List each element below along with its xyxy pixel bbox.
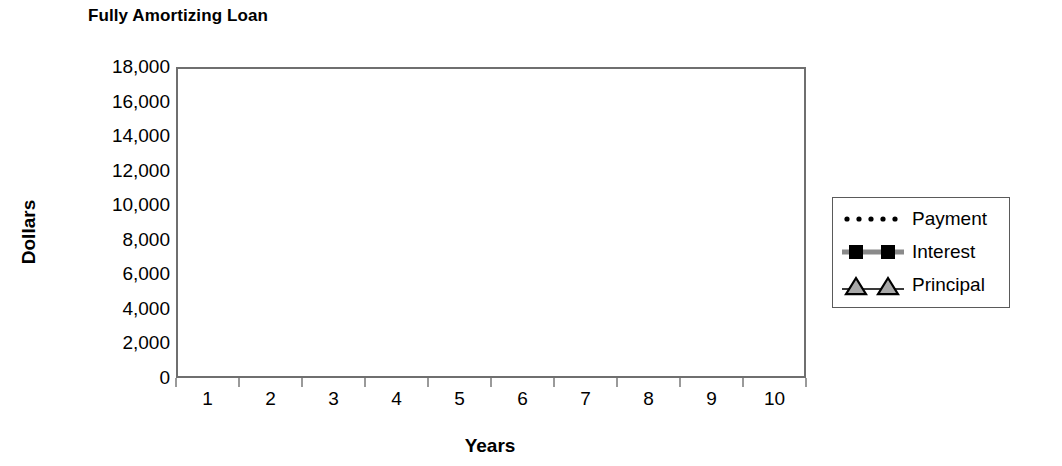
x-axis-tick-label: 2 — [241, 388, 301, 410]
y-axis-tick-label: 12,000 — [78, 160, 170, 182]
legend-label: Interest — [912, 241, 975, 263]
x-axis-tick-label: 10 — [745, 388, 805, 410]
x-axis-tick-label: 3 — [304, 388, 364, 410]
legend-label: Principal — [912, 274, 985, 296]
legend-item-interest[interactable]: Interest — [833, 237, 1009, 267]
y-axis-tick-label: 8,000 — [78, 229, 170, 251]
x-axis-tick-label: 6 — [493, 388, 553, 410]
plot-frame — [176, 67, 806, 378]
x-axis-tick-marks — [176, 378, 806, 387]
legend-item-principal[interactable]: Principal — [833, 270, 1009, 300]
legend-item-payment[interactable]: Payment — [833, 204, 1009, 234]
x-axis-tick-label: 9 — [682, 388, 742, 410]
x-axis-tick-label: 7 — [556, 388, 616, 410]
y-axis-tick-label: 14,000 — [78, 125, 170, 147]
y-axis-tick-label: 0 — [78, 367, 170, 389]
x-axis-tick-labels: 12345678910 — [176, 388, 806, 416]
chart-legend: PaymentInterestPrincipal — [832, 197, 1010, 308]
legend-swatch-interest-icon — [840, 239, 906, 265]
y-axis-tick-label: 18,000 — [78, 56, 170, 78]
x-axis-tick-label: 1 — [178, 388, 238, 410]
y-axis-tick-label: 16,000 — [78, 91, 170, 113]
y-axis-tick-label: 6,000 — [78, 263, 170, 285]
chart-figure: Fully Amortizing Loan Dollars Years 02,0… — [0, 0, 1062, 466]
y-axis-tick-label: 4,000 — [78, 298, 170, 320]
plot-area — [176, 67, 806, 378]
y-axis-tick-label: 2,000 — [78, 332, 170, 354]
legend-swatch-principal-icon — [840, 272, 906, 298]
y-axis-title: Dollars — [18, 152, 40, 312]
legend-label: Payment — [912, 208, 987, 230]
x-axis-tick-label: 8 — [619, 388, 679, 410]
x-axis-tick-label: 4 — [367, 388, 427, 410]
y-axis-tick-label: 10,000 — [78, 194, 170, 216]
y-axis-tick-labels: 02,0004,0006,0008,00010,00012,00014,0001… — [78, 67, 170, 378]
x-axis-title: Years — [170, 435, 810, 457]
chart-title: Fully Amortizing Loan — [88, 6, 268, 26]
legend-swatch-payment-icon — [840, 206, 906, 232]
x-axis-tick-label: 5 — [430, 388, 490, 410]
